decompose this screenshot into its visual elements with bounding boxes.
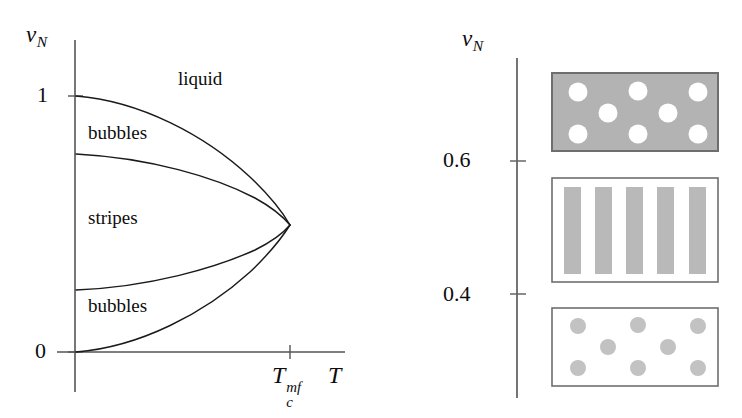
right-y-axis-label: νN	[462, 26, 483, 55]
inset-bubbles-dark	[552, 73, 718, 151]
left-panel-phase-diagram: νN 1 0 Tmfc T liquid bubbles stripes bub…	[0, 0, 400, 418]
left-y-axis-subscript: N	[37, 33, 47, 50]
left-y-tick-label-1: 1	[37, 82, 48, 108]
right-y-tick-label-06: 0.6	[443, 147, 471, 173]
x-tick-label-base: T	[272, 362, 285, 388]
left-y-axis-label: νN	[26, 22, 47, 51]
x-tick-label-subscript: c	[286, 394, 293, 411]
x-axis-label: T	[328, 362, 341, 389]
x-tick-label-tc: Tmfc	[272, 362, 285, 389]
left-y-axis-symbol: ν	[26, 22, 36, 47]
region-label-liquid: liquid	[178, 68, 222, 90]
right-y-axis-subscript: N	[473, 37, 483, 54]
right-y-axis-symbol: ν	[462, 26, 472, 51]
phase-diagram-figure: νN 1 0 Tmfc T liquid bubbles stripes bub…	[0, 0, 742, 418]
inset-bubbles-light	[552, 308, 718, 386]
right-panel-inset-column: νN 0.6 0.4	[400, 0, 742, 418]
curve-liquid-bubbles-upper	[76, 96, 290, 225]
left-y-tick-label-0: 0	[35, 338, 46, 364]
region-label-bubbles-upper: bubbles	[88, 122, 147, 144]
right-panel-canvas	[400, 0, 742, 418]
right-y-tick-label-04: 0.4	[443, 281, 471, 307]
curve-bubbles-liquid-lower	[76, 225, 290, 352]
inset-stripes	[552, 178, 718, 282]
region-label-bubbles-lower: bubbles	[88, 295, 147, 317]
region-label-stripes: stripes	[88, 207, 138, 229]
left-panel-canvas	[0, 0, 400, 418]
curve-stripes-bubbles-lower	[76, 225, 290, 290]
